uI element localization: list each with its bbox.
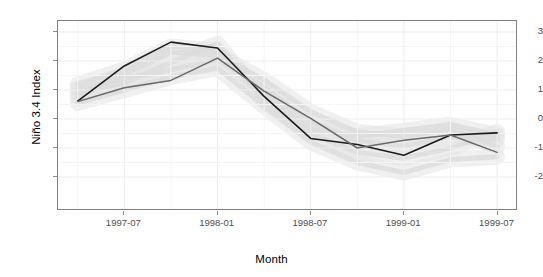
x-axis-tick [123, 211, 124, 215]
y-tick-group [0, 0, 53, 10]
y-axis-tick-label: 3 [499, 26, 543, 36]
x-axis-tick-label: 1999-01 [363, 217, 443, 228]
plot-lines-svg [58, 21, 516, 209]
y-axis-tick-label: 1 [499, 84, 543, 94]
x-axis-tick-label: 1997-07 [83, 217, 163, 228]
y-axis-tick [53, 89, 57, 90]
plot-panel-clip [58, 21, 516, 209]
y-axis-tick [53, 176, 57, 177]
y-axis-tick-label: 2 [499, 55, 543, 65]
y-axis-tick-label: 0 [499, 113, 543, 123]
x-axis-tick [217, 211, 218, 215]
plot-panel [57, 20, 517, 210]
y-axis-tick [53, 118, 57, 119]
y-axis-tick-label: -1 [499, 142, 543, 152]
x-axis-tick-label: 1998-07 [270, 217, 350, 228]
y-axis-tick [53, 147, 57, 148]
x-axis-tick [310, 211, 311, 215]
x-axis-tick [403, 211, 404, 215]
ensemble-background-lines [78, 44, 497, 173]
y-axis-tick-label: -2 [499, 171, 543, 181]
chart-figure: Niño 3.4 Index 1997-071998-011998-071999… [0, 0, 543, 277]
x-axis-tick [497, 211, 498, 215]
y-axis-tick [53, 60, 57, 61]
y-axis-tick [53, 31, 57, 32]
y-axis-title: Niño 3.4 Index [30, 12, 50, 202]
x-axis-title: Month [0, 253, 543, 265]
x-axis-tick-label: 1999-07 [457, 217, 537, 228]
x-axis-tick-label: 1998-01 [177, 217, 257, 228]
